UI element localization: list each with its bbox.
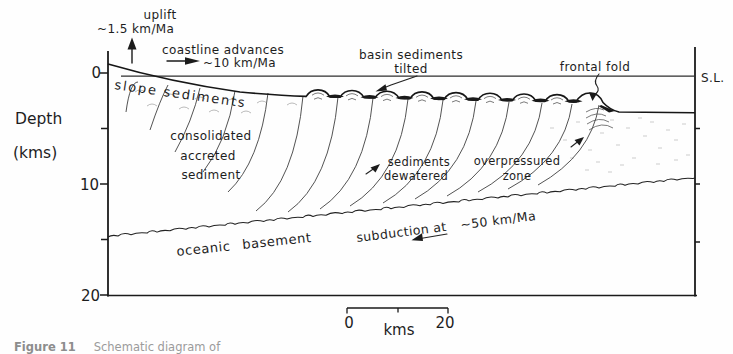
consolidated-label: consolidated <box>170 129 251 143</box>
overpressured-fault-arrow <box>571 137 584 147</box>
thrust-fault <box>350 99 408 206</box>
figure-caption-number: Figure 11 <box>14 340 76 354</box>
crest-arc <box>452 101 460 103</box>
fold-bedding-arcs <box>312 93 613 130</box>
thrust-fault <box>320 98 373 209</box>
tilted-basin-fills <box>326 94 615 112</box>
sediment-mark <box>287 103 297 105</box>
basin-tilted-label: tilted <box>394 62 427 76</box>
crest-arc <box>383 99 391 101</box>
frontal-fold-arc <box>587 119 609 124</box>
crest-arc <box>416 95 428 97</box>
scale-bar-unit: kms <box>383 321 414 339</box>
overpressured-speckle <box>550 118 690 172</box>
thrust-fault <box>415 101 476 199</box>
coastline-arrow <box>167 57 200 64</box>
depth-tick-0: 0 <box>91 64 101 82</box>
sediments-dewatered-label-1: sediments <box>388 155 450 169</box>
scale-bar: 0 kms 20 <box>344 308 454 339</box>
depth-tick-10: 10 <box>80 176 99 194</box>
accreted-label: accreted <box>180 149 236 163</box>
coastline-label: coastline advances <box>162 43 284 57</box>
dewatered-fault-arrow <box>366 164 380 174</box>
thrust-fault <box>447 102 509 196</box>
uplift-rate-label: ~1.5 km/Ma <box>97 22 174 36</box>
depth-tick-20: 20 <box>81 287 100 305</box>
figure-caption: Figure 11Schematic diagram of <box>14 340 714 354</box>
crest-arc <box>518 97 530 99</box>
basin-sediments-arrow <box>376 76 418 92</box>
subduction-text: subduction at <box>356 219 448 245</box>
crest-arc <box>450 96 462 98</box>
sediment-label: sediment <box>181 168 240 182</box>
crest-arc <box>520 102 528 104</box>
crest-arc <box>381 94 393 96</box>
thrust-fault <box>256 96 303 211</box>
overpressured-label-1: overpressured <box>474 154 561 168</box>
sediments-dewatered-label-2: dewatered <box>384 169 448 183</box>
crest-arc <box>553 103 561 105</box>
scale-bar-bracket <box>347 308 448 314</box>
uplift-label: uplift <box>143 8 176 22</box>
crest-arc <box>486 101 494 103</box>
frontal-fold-arc <box>586 108 604 112</box>
oceanic-basement-label: oceanic basement <box>176 230 313 259</box>
thrust-fault <box>288 97 338 212</box>
subduction-rate-text: ~50 km/Ma <box>460 208 537 232</box>
crest-arc <box>418 100 426 102</box>
crest-arc <box>348 98 356 100</box>
frontal-fold-arrow <box>589 74 599 101</box>
crest-arc <box>484 96 496 98</box>
overpressured-label-2: zone <box>503 169 532 183</box>
scale-bar-start: 0 <box>344 314 354 332</box>
sediment-mark <box>147 104 157 106</box>
depth-axis-label: Depth <box>15 110 62 128</box>
sediment-mark <box>241 111 251 113</box>
sea-level-label: S.L. <box>701 71 725 85</box>
subduction-label: subduction at~50 km/Ma <box>356 208 537 245</box>
basin-sediments-label: basin sediments <box>359 48 463 62</box>
sediment-mark <box>209 110 219 112</box>
crest-arc <box>312 93 324 95</box>
frontal-fold-label: frontal fold <box>560 60 630 74</box>
coastline-rate-label: ~10 km/Ma <box>203 56 276 70</box>
crest-arc <box>314 98 322 100</box>
frontal-fold-arc <box>589 125 613 130</box>
figure-caption-text: Schematic diagram of <box>94 340 220 354</box>
uplift-arrow <box>128 38 137 64</box>
thrust-fault <box>538 105 599 185</box>
sediment-mark <box>257 101 267 103</box>
crest-arc <box>551 98 563 100</box>
crest-arc <box>346 94 358 96</box>
left-axis-ticks <box>100 73 108 295</box>
depth-axis-units: (kms) <box>13 144 57 162</box>
sediment-mark <box>179 107 189 109</box>
scale-bar-end: 20 <box>435 314 454 332</box>
thrust-fault <box>383 100 443 203</box>
